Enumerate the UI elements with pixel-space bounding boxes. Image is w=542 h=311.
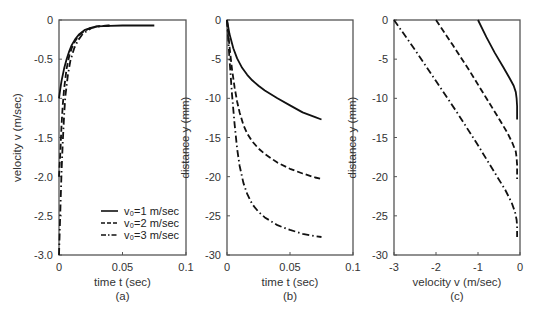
series-line-solid [227, 20, 322, 120]
chart-panel-c: 0-5-10-15-20-25-30-3-2-10velocity v (m/s… [346, 14, 523, 302]
x-tick-label: 0.05 [112, 261, 133, 273]
series-line-dashdot [394, 20, 517, 237]
y-tick-label: -5 [378, 53, 388, 65]
y-tick-label: -2.5 [34, 210, 53, 222]
panel-label: (a) [115, 290, 129, 302]
y-tick-label: -20 [205, 171, 221, 183]
y-tick-label: -2.0 [34, 171, 53, 183]
y-tick-label: -10 [372, 92, 388, 104]
x-axis-label: velocity v (m/sec) [413, 276, 502, 288]
x-tick-label: 0.1 [345, 261, 360, 273]
x-tick-label: -1 [473, 261, 483, 273]
x-tick-label: 0.1 [178, 261, 193, 273]
series-line-dashed [59, 26, 110, 177]
y-axis-label: distance y (mm) [346, 96, 358, 178]
legend-label: v₀=1 m/sec [124, 205, 180, 217]
series-line-solid [59, 26, 154, 99]
x-tick-label: 0 [224, 261, 230, 273]
x-axis-label: time t (sec) [94, 276, 151, 288]
y-tick-label: -15 [205, 132, 221, 144]
y-tick-label: 0 [47, 14, 53, 26]
series-line-dashed [436, 20, 517, 179]
y-tick-label: -10 [205, 92, 221, 104]
y-tick-label: -1.0 [34, 92, 53, 104]
x-tick-label: -3 [389, 261, 399, 273]
series-line-solid [478, 20, 517, 120]
y-tick-label: -15 [372, 132, 388, 144]
y-axis-label: distance y (mm) [179, 96, 191, 178]
y-tick-label: -20 [372, 171, 388, 183]
y-tick-label: 0 [215, 14, 221, 26]
y-tick-label: 0 [382, 14, 388, 26]
x-axis-label: time t (sec) [262, 276, 319, 288]
y-tick-label: -30 [205, 249, 221, 261]
panel-label: (b) [283, 290, 297, 302]
chart-panel-a: 0-0.5-1.0-1.5-2.0-2.5-3.000.050.1time t … [11, 14, 194, 302]
figure: 0-0.5-1.0-1.5-2.0-2.5-3.000.050.1time t … [0, 0, 542, 311]
y-tick-label: -3.0 [34, 249, 53, 261]
y-tick-label: -25 [205, 210, 221, 222]
y-tick-label: -5 [211, 53, 221, 65]
y-axis-label: velocity v (m/sec) [11, 93, 23, 182]
plot-frame [394, 20, 520, 255]
plot-frame [227, 20, 353, 255]
x-tick-label: 0.05 [279, 261, 300, 273]
y-tick-label: -30 [372, 249, 388, 261]
x-tick-label: -2 [431, 261, 441, 273]
legend-label: v₀=3 m/sec [124, 229, 180, 241]
y-tick-label: -0.5 [34, 53, 53, 65]
chart-panel-b: 0-5-10-15-20-25-3000.050.1time t (sec)(b… [179, 14, 361, 302]
series-line-dashed [227, 20, 322, 179]
legend: v₀=1 m/secv₀=2 m/secv₀=3 m/sec [101, 205, 180, 241]
x-tick-label: 0 [56, 261, 62, 273]
x-tick-label: 0 [517, 261, 523, 273]
y-tick-label: -1.5 [34, 132, 53, 144]
legend-label: v₀=2 m/sec [124, 217, 180, 229]
panel-label: (c) [450, 290, 464, 302]
series-line-dashdot [227, 20, 322, 237]
y-tick-label: -25 [372, 210, 388, 222]
